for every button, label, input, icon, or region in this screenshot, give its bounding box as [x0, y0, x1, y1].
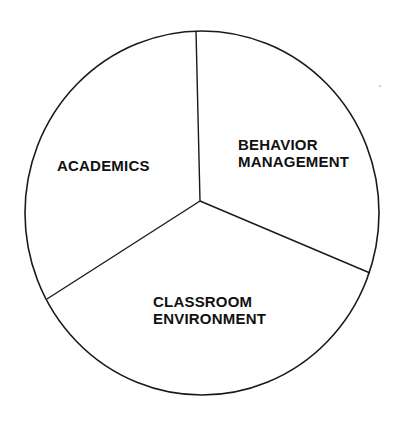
outer-circle: [25, 31, 379, 395]
segment-label-classroom-line1: CLASSROOM: [153, 293, 252, 310]
segment-label-behavior-line2: MANAGEMENT: [238, 153, 349, 170]
scan-speck: [379, 85, 381, 87]
three-part-circle-diagram: ACADEMICS BEHAVIOR MANAGEMENT CLASSROOM …: [0, 0, 400, 422]
segment-label-academics: ACADEMICS: [57, 157, 150, 174]
segment-label-behavior-line1: BEHAVIOR: [238, 136, 318, 153]
segment-label-classroom-line2: ENVIRONMENT: [153, 310, 266, 327]
